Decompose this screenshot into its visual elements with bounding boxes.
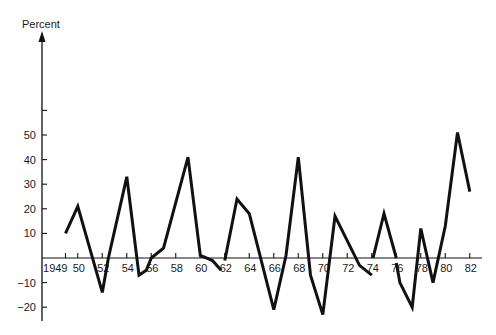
y-tick-label: 30 — [24, 178, 36, 190]
y-axis — [39, 31, 46, 321]
x-tick-label: 80 — [440, 262, 452, 274]
series-line — [396, 133, 470, 308]
x-tick-label: 60 — [195, 262, 207, 274]
x-tick-label: 82 — [465, 262, 477, 274]
x-tick-label: 68 — [293, 262, 305, 274]
y-tick-label: 50 — [24, 129, 36, 141]
x-tick-label: 1949 — [43, 262, 67, 274]
y-tick-label: 20 — [24, 203, 36, 215]
series-line — [225, 157, 372, 315]
x-tick-label: 72 — [342, 262, 354, 274]
x-tick-label: 50 — [73, 262, 85, 274]
y-tick-label: 40 — [24, 154, 36, 166]
x-tick-label: 54 — [122, 262, 134, 274]
x-tick-label: 66 — [269, 262, 281, 274]
x-tick-label: 58 — [171, 262, 183, 274]
data-series — [66, 133, 470, 315]
y-tick-label: −20 — [17, 301, 36, 313]
arrow-up-icon — [39, 31, 46, 42]
y-axis-title: Percent — [22, 18, 60, 30]
line-chart: Percent −20−101020304050 194950525456586… — [0, 0, 496, 335]
y-tick-label: 10 — [24, 227, 36, 239]
y-tick-label: −10 — [17, 277, 36, 289]
series-line — [373, 214, 396, 258]
x-tick-label: 64 — [244, 262, 256, 274]
x-tick-label: 62 — [220, 262, 232, 274]
